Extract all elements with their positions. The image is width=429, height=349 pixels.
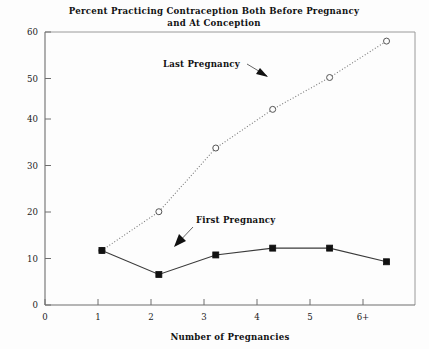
- x-tick-label-3: 3: [201, 312, 206, 322]
- data-point: [327, 245, 333, 251]
- y-tick-label-60: 60: [27, 27, 38, 37]
- annotation-arrow-last-pregnancy: [256, 68, 268, 77]
- y-tick-label-0: 0: [33, 300, 38, 310]
- data-point: [156, 209, 162, 215]
- y-tick-label-50: 50: [27, 74, 38, 84]
- data-point: [270, 106, 276, 112]
- annotation-label-first-pregnancy: First Pregnancy: [196, 215, 276, 225]
- data-point: [213, 145, 219, 151]
- x-tick-label-6plus: 6+: [357, 312, 370, 322]
- y-tick-label-20: 20: [27, 207, 38, 217]
- chart-title-line-1: Percent Practicing Contraception Both Be…: [69, 6, 360, 16]
- y-tick-label-30: 30: [27, 161, 38, 171]
- annotation-label-last-pregnancy: Last Pregnancy: [163, 59, 241, 69]
- x-axis-title: Number of Pregnancies: [170, 332, 289, 342]
- y-tick-label-40: 40: [27, 114, 38, 124]
- x-tick-label-4: 4: [254, 312, 260, 322]
- line-chart: Percent Practicing Contraception Both Be…: [0, 0, 429, 349]
- data-point: [384, 259, 390, 265]
- x-tick-label-2: 2: [148, 312, 153, 322]
- x-tick-label-5: 5: [307, 312, 312, 322]
- y-axis-ticks: [45, 32, 51, 305]
- data-point: [270, 245, 276, 251]
- data-point: [327, 75, 333, 81]
- data-point: [213, 252, 219, 258]
- chart-title-line-2: and At Conception: [167, 18, 261, 28]
- x-tick-label-1: 1: [95, 312, 100, 322]
- data-point: [156, 272, 162, 278]
- data-point: [99, 247, 105, 253]
- x-tick-label-0: 0: [42, 312, 47, 322]
- series-line-first-pregnancy: [102, 248, 387, 274]
- x-axis-ticks: [45, 299, 363, 305]
- series-markers-first-pregnancy: [99, 245, 390, 277]
- y-tick-label-10: 10: [27, 254, 38, 264]
- plot-frame: [45, 32, 415, 305]
- chart-container: Percent Practicing Contraception Both Be…: [0, 0, 429, 349]
- data-point: [384, 38, 390, 44]
